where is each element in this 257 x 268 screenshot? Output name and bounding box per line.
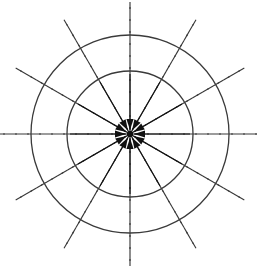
figure-root: Radial convergence field diagram	[0, 0, 257, 268]
center-point-group	[127, 131, 133, 137]
center-point-dot	[127, 131, 133, 137]
radial-convergence-diagram: Radial convergence field diagram	[0, 0, 257, 268]
